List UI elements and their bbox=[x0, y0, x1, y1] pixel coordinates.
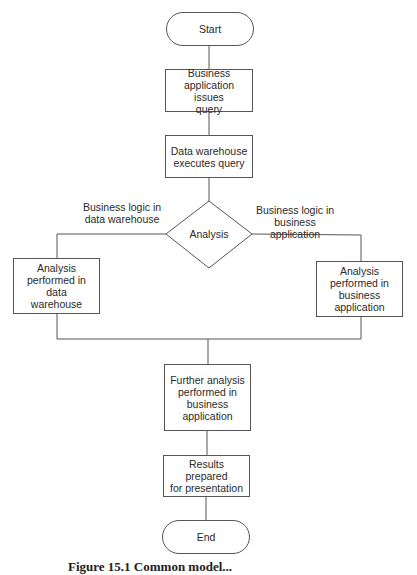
end-terminal: End bbox=[162, 520, 250, 554]
issue-query-label: Business application issues query bbox=[169, 67, 249, 115]
analysis-business-app-box: Analysis performed in business applicati… bbox=[316, 261, 403, 317]
execute-query-label: Data warehouse executes query bbox=[171, 145, 247, 169]
decision-label: Analysis bbox=[176, 228, 242, 240]
analysis-data-warehouse-box: Analysis performed in data warehouse bbox=[13, 258, 100, 314]
results-box: Results prepared for presentation bbox=[163, 455, 250, 497]
left-branch-label: Business logic in data warehouse bbox=[80, 201, 164, 225]
end-label: End bbox=[197, 531, 216, 543]
further-analysis-label: Further analysis performed in business a… bbox=[170, 374, 245, 422]
figure-caption: Figure 15.1 Common model... bbox=[68, 559, 232, 575]
start-label: Start bbox=[199, 23, 221, 35]
execute-query-box: Data warehouse executes query bbox=[165, 135, 253, 178]
results-label: Results prepared for presentation bbox=[167, 458, 246, 494]
analysis-data-warehouse-label: Analysis performed in data warehouse bbox=[17, 262, 96, 310]
right-branch-label: Business logic in business application bbox=[250, 204, 340, 240]
further-analysis-box: Further analysis performed in business a… bbox=[164, 364, 251, 431]
start-terminal: Start bbox=[166, 12, 254, 46]
analysis-business-app-label: Analysis performed in business applicati… bbox=[330, 265, 389, 313]
issue-query-box: Business application issues query bbox=[165, 69, 253, 112]
